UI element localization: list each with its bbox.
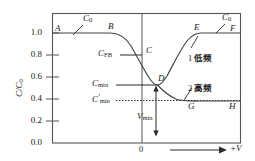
point-label-b: B (108, 22, 114, 31)
c0-left-label: C0 (83, 14, 92, 24)
cmin-label: Cmin (92, 79, 108, 89)
cmin-prime-sub: min (100, 97, 110, 104)
y-tick-label-6: 0.0 (20, 138, 42, 147)
c0-right-leader (216, 24, 225, 33)
cfb-label: CFB (98, 49, 112, 59)
vmin-sub: min (143, 114, 153, 121)
point-label-h: H (229, 102, 236, 111)
point-label-g: G (188, 102, 195, 111)
point-label-c: C (146, 46, 152, 55)
y-tick-label-5: 0.2 (20, 116, 42, 125)
y-axis-title-text: C/C (14, 82, 24, 97)
vmin-arrowhead-down (153, 131, 158, 137)
point-label-a: A (55, 24, 61, 33)
cv-curve-figure: 1.0 0.8 0.6 0.4 0.2 0.0 C/C0 A B C D E F… (0, 0, 255, 161)
x-axis-origin-label: 0 (139, 145, 143, 154)
c0-right-label: C0 (222, 13, 231, 23)
low-freq-legend-leader (191, 36, 198, 48)
c0-left-sub: 0 (89, 16, 92, 23)
c0-right-sub: 0 (228, 15, 231, 22)
y-axis-title-sub: 0 (17, 79, 24, 82)
y-tick-label-2: 0.8 (20, 50, 42, 59)
point-label-e: E (194, 23, 200, 32)
legend-high-frequency-number: 2 (188, 83, 192, 93)
legend-high-frequency: 2高频 (188, 78, 212, 94)
legend-high-frequency-label: 高频 (194, 83, 212, 93)
vmin-arrowhead-up (153, 86, 158, 92)
legend-low-frequency-number: 1 (188, 53, 192, 63)
y-axis-title: C/C0 (14, 79, 24, 97)
legend-low-frequency-label: 低频 (194, 53, 212, 63)
x-axis-arrowhead (219, 147, 227, 154)
point-label-f: F (230, 24, 236, 33)
legend-low-frequency: 1低频 (188, 48, 212, 64)
cfb-sub: FB (104, 51, 112, 58)
point-label-d: D (158, 74, 165, 83)
x-axis-title: +V (230, 144, 242, 153)
cmin-prime-label: C'min (92, 94, 110, 105)
vmin-label: Vmin (137, 112, 153, 122)
y-tick-label-1: 1.0 (20, 28, 42, 37)
cmin-sub: min (98, 81, 108, 88)
